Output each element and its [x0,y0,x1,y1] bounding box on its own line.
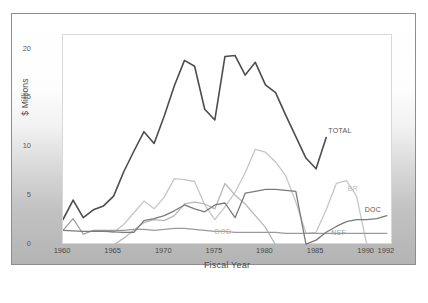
series-label-dod: DOD [215,228,231,235]
series-label-nsf: NSF [331,229,346,236]
series-label-doc: DOC [365,206,381,213]
x-tick-1965: 1965 [93,246,133,255]
series-line-total [63,56,326,220]
y-tick-10: 10 [1,141,31,150]
series-label-total: TOTAL [328,127,351,134]
plot-area [62,34,392,244]
y-tick-20: 20 [1,44,31,53]
y-tick-0: 0 [1,239,31,248]
series-label-br: BR [347,185,357,192]
x-tick-1992: 1992 [366,246,406,255]
x-tick-1970: 1970 [143,246,183,255]
x-tick-1960: 1960 [42,246,82,255]
x-tick-1985: 1985 [295,246,335,255]
x-tick-1980: 1980 [244,246,284,255]
line-chart-svg [63,35,393,245]
y-tick-15: 15 [1,92,31,101]
y-tick-5: 5 [1,190,31,199]
x-tick-1975: 1975 [194,246,234,255]
chart-figure-frame: $ Millions 05101520 19601965197019751980… [11,13,416,265]
x-axis-title: Fiscal Year [62,260,392,270]
